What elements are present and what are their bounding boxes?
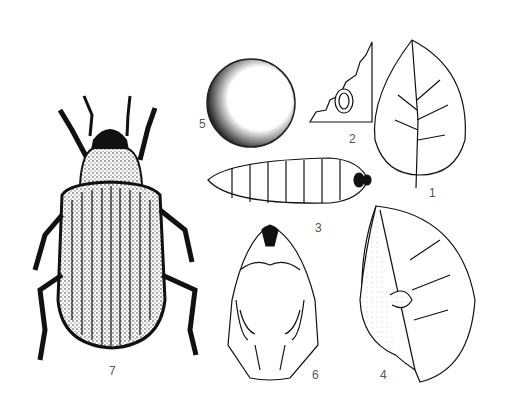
- figure-label-4: 4: [380, 369, 387, 381]
- larva-drawing: [208, 158, 371, 203]
- figure-label-3: 3: [315, 222, 322, 234]
- figure-label-5: 5: [199, 118, 206, 130]
- figure-label-6: 6: [312, 369, 319, 381]
- leaf-drawing: [374, 40, 465, 188]
- figure-label-2: 2: [349, 133, 356, 145]
- pupa-drawing: [228, 225, 318, 380]
- figure-label-7: 7: [109, 365, 116, 377]
- egg-drawing: [207, 59, 295, 147]
- figure-label-1: 1: [429, 187, 436, 199]
- rolled-leaf-drawing: [360, 206, 475, 382]
- leaf-fragment-drawing: [310, 42, 372, 122]
- illustration-canvas: [0, 0, 506, 414]
- adult-beetle-drawing: [35, 96, 196, 360]
